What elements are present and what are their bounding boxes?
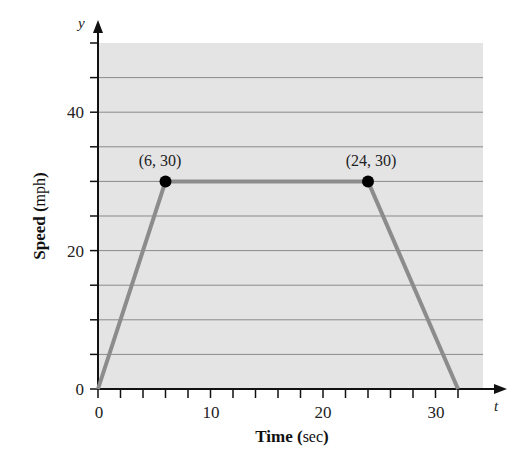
speed-time-chart: (6, 30) (24, 30) 0 20 40 0 10 20 30 y t …: [0, 0, 513, 462]
x-axis-arrow-icon: [494, 384, 507, 394]
x-tick-label-0: 0: [95, 403, 104, 422]
x-axis-title: Time (sec): [255, 427, 328, 446]
x-tick-label-20: 20: [315, 403, 332, 422]
y-axis-variable: y: [76, 15, 85, 31]
x-tick-label-10: 10: [203, 403, 220, 422]
x-axis-ticks: [98, 389, 458, 398]
y-axis-title: Speed (mph): [30, 172, 49, 260]
y-tick-label-20: 20: [67, 242, 84, 261]
y-tick-label-0: 0: [76, 380, 85, 399]
annotation-6-30: (6, 30): [139, 152, 182, 170]
y-axis-ticks: [90, 43, 98, 389]
data-point-6-30: [160, 175, 172, 187]
y-axis-arrow-icon: [93, 20, 103, 33]
data-point-24-30: [362, 175, 374, 187]
x-tick-label-30: 30: [428, 403, 445, 422]
y-tick-label-40: 40: [67, 103, 84, 122]
annotation-24-30: (24, 30): [346, 152, 397, 170]
x-axis-variable: t: [494, 398, 499, 414]
